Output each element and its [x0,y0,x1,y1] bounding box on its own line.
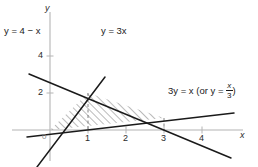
fraction-numerator: x [226,82,232,90]
equation-label-line3: 3y = x (or y = x3) [168,82,236,100]
x-tick-label-2: 2 [123,134,128,143]
x-axis-label: x [240,131,245,140]
origin-label: 0 [42,133,46,141]
y-tick-label-2: 2 [38,88,43,97]
equation-label-line3-prefix: 3y = x (or y = [168,85,226,96]
equation-label-line1: y = 4 − x [4,26,40,36]
equation-label-line2: y = 3x [101,26,127,36]
fraction-denominator: 3 [226,92,232,100]
math-graph-figure: x y 0 1 2 3 4 2 4 y = 4 − x y = 3x 3y = … [0,0,258,167]
hatch-fill [50,93,164,130]
shaded-region [50,93,164,130]
fraction-x-over-3: x3 [226,82,232,100]
y-tick-label-4: 4 [38,51,43,60]
x-tick-label-4: 4 [199,134,204,143]
x-tick-label-1: 1 [85,134,90,143]
x-tick-label-3: 3 [161,134,166,143]
y-axis-label: y [45,4,50,13]
equation-label-line3-suffix: ) [233,85,236,96]
